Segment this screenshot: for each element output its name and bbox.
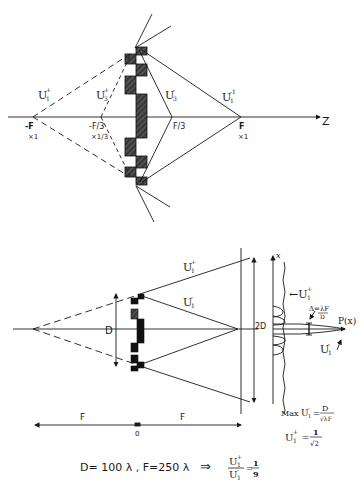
distance-label-left: F xyxy=(80,412,85,422)
svg-text:D: D xyxy=(320,313,325,320)
svg-text:-1: -1 xyxy=(230,88,236,95)
optics-diagram: Z -F ×1 -F/3 ×1/3 F/3 F ×1 U + 1 U + 3 U… xyxy=(0,0,364,495)
point-f-mag: ×1 xyxy=(238,133,248,141)
origin-label: 0 xyxy=(135,430,139,438)
distance-label-right: F xyxy=(180,412,185,422)
svg-text:+: + xyxy=(46,86,51,93)
implies-arrow: ⇒ xyxy=(200,459,211,474)
svg-text:=: = xyxy=(302,433,310,443)
point-f: F xyxy=(239,122,244,131)
profile-u1-minus-label: U - 1 xyxy=(320,340,332,356)
svg-text:1: 1 xyxy=(237,474,241,481)
grating-profile xyxy=(125,47,147,185)
formula-parameters: D= 100 λ , F=250 λ ⇒ xyxy=(80,459,211,474)
top-diagram xyxy=(8,14,320,222)
svg-text:1: 1 xyxy=(313,427,319,437)
beam-label-u1-plus-bottom: U + 1 xyxy=(183,258,196,274)
svg-text:-: - xyxy=(237,466,239,473)
svg-text:1: 1 xyxy=(253,458,259,468)
svg-text:1: 1 xyxy=(191,302,195,309)
svg-text:9: 9 xyxy=(253,469,259,479)
svg-text:=: = xyxy=(313,409,320,418)
svg-text:=: = xyxy=(246,464,253,473)
svg-text:-: - xyxy=(191,293,193,300)
beam-label-u1-minus-bottom: U - 1 xyxy=(183,293,195,309)
profile-u1-plus-label: ←U + 1 xyxy=(289,285,312,301)
svg-text:Δ=λF: Δ=λF xyxy=(309,305,329,313)
svg-text:3: 3 xyxy=(173,95,177,102)
svg-text:1: 1 xyxy=(308,413,311,419)
svg-text:1: 1 xyxy=(328,349,332,356)
point-minus-f3: -F/3 xyxy=(89,122,104,131)
svg-text:√λF: √λF xyxy=(320,415,332,422)
beam-label-u3-minus: U - 3 xyxy=(165,86,177,102)
bottom-diagram xyxy=(13,248,345,426)
beam-label-u1-minus: U -1 1 xyxy=(222,88,236,104)
svg-text:+: + xyxy=(104,86,109,93)
svg-text:-: - xyxy=(308,405,310,411)
beam-label-u1-plus: U + 1 xyxy=(38,86,51,102)
svg-text:-: - xyxy=(328,340,330,347)
svg-text:Max: Max xyxy=(281,409,299,418)
svg-text:←U: ←U xyxy=(289,288,308,301)
svg-text:+: + xyxy=(307,285,312,292)
formula-u1-plus: U + 1 = 1 √2 xyxy=(285,427,322,448)
peak-width-label: Δ=λF D xyxy=(309,305,329,320)
svg-text:1: 1 xyxy=(307,294,311,301)
svg-text:D= 100 λ , F=250 λ: D= 100 λ , F=250 λ xyxy=(80,461,190,474)
top-labels: Z -F ×1 -F/3 ×1/3 F/3 F ×1 U + 1 U + 3 U… xyxy=(25,86,330,141)
point-minus-f-mag: ×1 xyxy=(28,133,38,141)
screen-width-label: 2D xyxy=(255,322,266,331)
point-f3: F/3 xyxy=(173,122,185,131)
formula-ratio: U + 1 U - 1 = 1 9 xyxy=(228,453,259,481)
point-minus-f: -F xyxy=(25,122,34,131)
axis-z-label: Z xyxy=(322,115,330,128)
svg-text:√2: √2 xyxy=(310,440,319,448)
svg-text:1: 1 xyxy=(230,97,234,104)
svg-text:-: - xyxy=(173,86,175,93)
svg-text:+: + xyxy=(237,453,242,460)
svg-text:1: 1 xyxy=(191,267,195,274)
svg-text:3: 3 xyxy=(104,95,108,102)
svg-text:D: D xyxy=(322,404,328,413)
x-axis-label: x xyxy=(276,251,281,260)
grating-profile-bottom xyxy=(131,294,144,371)
svg-text:+: + xyxy=(191,258,196,265)
aperture-label: D xyxy=(105,325,113,336)
point-minus-f3-mag: ×1/3 xyxy=(91,133,108,141)
formula-max-u1-minus: Max U - 1 = D √λF xyxy=(281,404,334,422)
intensity-label: P(x) xyxy=(338,316,356,326)
beam-label-u3-plus: U + 3 xyxy=(96,86,109,102)
svg-text:1: 1 xyxy=(293,437,297,444)
svg-text:1: 1 xyxy=(46,95,50,102)
svg-text:+: + xyxy=(293,428,298,435)
